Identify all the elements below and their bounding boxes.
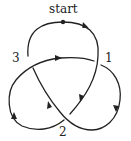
strand-right-loop <box>33 65 120 130</box>
crossing-1-label: 1 <box>105 52 113 64</box>
crossing-3-label: 3 <box>12 52 20 64</box>
crossing-2-label: 2 <box>59 126 67 138</box>
knot-diagram: start 1 2 3 <box>0 0 131 141</box>
arrow-diagonal-up <box>47 101 52 109</box>
start-dot <box>61 20 65 24</box>
start-label: start <box>49 3 78 15</box>
strand-lower-left-loop <box>9 58 94 130</box>
strand-top-loop <box>28 22 98 114</box>
arrow-horizontal <box>55 55 62 61</box>
trefoil-knot-graphic <box>0 0 131 141</box>
